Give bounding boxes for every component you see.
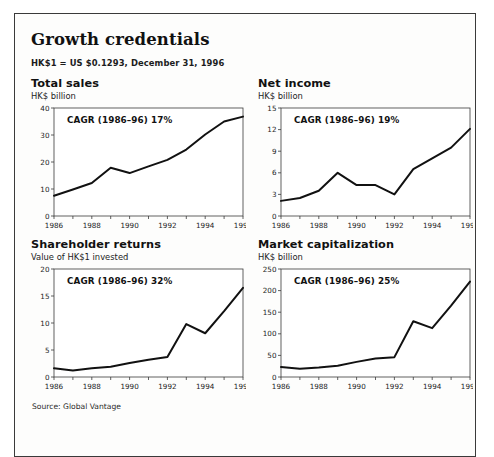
cagr-annotation: CAGR (1986–96) 25% — [294, 276, 399, 286]
svg-text:9: 9 — [272, 147, 277, 156]
svg-text:1996: 1996 — [461, 221, 473, 230]
svg-text:1988: 1988 — [310, 221, 329, 230]
source-note: Source: Global Vantage — [32, 402, 461, 411]
svg-text:1990: 1990 — [347, 221, 366, 230]
svg-text:1990: 1990 — [120, 221, 139, 230]
svg-text:100: 100 — [263, 329, 277, 338]
plot-area: 05101520198619881990199219941996 CAGR (1… — [31, 265, 246, 395]
chart-market-capitalization: Market capitalization HK$ billion 050100… — [258, 238, 473, 395]
svg-text:200: 200 — [263, 286, 277, 295]
svg-text:1992: 1992 — [158, 221, 176, 230]
plot-area: 010203040198619881990199219941996 CAGR (… — [31, 104, 246, 234]
chart-unit-label: HK$ billion — [31, 91, 258, 101]
chart-shareholder-returns: Shareholder returns Value of HK$1 invest… — [31, 238, 258, 395]
chart-grid: Total sales HK$ billion 0102030401986198… — [31, 77, 461, 395]
svg-text:1986: 1986 — [45, 382, 64, 391]
svg-text:250: 250 — [263, 265, 277, 274]
svg-text:40: 40 — [40, 104, 50, 113]
svg-text:1988: 1988 — [83, 382, 102, 391]
chart-net-income: Net income HK$ billion 03691215198619881… — [258, 77, 473, 234]
chart-unit-label: Value of HK$1 invested — [31, 252, 258, 262]
svg-text:12: 12 — [267, 125, 276, 134]
exhibit-panel: Growth credentials HK$1 = US $0.1293, De… — [14, 13, 476, 457]
plot-area: 050100150200250198619881990199219941996 … — [258, 265, 473, 395]
svg-text:15: 15 — [40, 292, 49, 301]
svg-text:1986: 1986 — [272, 382, 291, 391]
plot-area: 03691215198619881990199219941996 CAGR (1… — [258, 104, 473, 234]
chart-title: Net income — [258, 77, 473, 90]
svg-text:1992: 1992 — [158, 382, 176, 391]
svg-text:15: 15 — [267, 104, 276, 113]
chart-unit-label: HK$ billion — [258, 252, 473, 262]
chart-title: Total sales — [31, 77, 258, 90]
svg-text:1996: 1996 — [234, 221, 246, 230]
page-title: Growth credentials — [31, 30, 461, 49]
svg-text:1986: 1986 — [272, 221, 291, 230]
svg-text:6: 6 — [272, 168, 277, 177]
svg-text:0: 0 — [45, 212, 50, 221]
svg-text:1994: 1994 — [423, 382, 442, 391]
svg-text:1994: 1994 — [423, 221, 442, 230]
svg-text:1996: 1996 — [461, 382, 473, 391]
svg-text:10: 10 — [40, 319, 50, 328]
svg-text:0: 0 — [45, 373, 50, 382]
svg-text:1988: 1988 — [83, 221, 102, 230]
svg-text:20: 20 — [40, 265, 50, 274]
svg-text:1990: 1990 — [347, 382, 366, 391]
svg-text:0: 0 — [272, 373, 277, 382]
svg-text:5: 5 — [45, 346, 50, 355]
svg-text:1992: 1992 — [385, 221, 403, 230]
svg-text:30: 30 — [40, 131, 50, 140]
chart-total-sales: Total sales HK$ billion 0102030401986198… — [31, 77, 258, 234]
svg-text:0: 0 — [272, 212, 277, 221]
chart-title: Shareholder returns — [31, 238, 258, 251]
svg-text:10: 10 — [40, 185, 50, 194]
svg-text:1996: 1996 — [234, 382, 246, 391]
cagr-annotation: CAGR (1986–96) 17% — [67, 115, 172, 125]
svg-text:1990: 1990 — [120, 382, 139, 391]
svg-text:1994: 1994 — [196, 221, 215, 230]
cagr-annotation: CAGR (1986–96) 19% — [294, 115, 399, 125]
svg-text:150: 150 — [263, 308, 277, 317]
svg-text:50: 50 — [267, 351, 277, 360]
exchange-rate-note: HK$1 = US $0.1293, December 31, 1996 — [31, 58, 461, 68]
svg-text:1988: 1988 — [310, 382, 329, 391]
svg-text:20: 20 — [40, 158, 50, 167]
chart-title: Market capitalization — [258, 238, 473, 251]
svg-text:1994: 1994 — [196, 382, 215, 391]
cagr-annotation: CAGR (1986–96) 32% — [67, 276, 172, 286]
svg-text:1986: 1986 — [45, 221, 64, 230]
svg-text:1992: 1992 — [385, 382, 403, 391]
svg-text:3: 3 — [272, 190, 277, 199]
chart-unit-label: HK$ billion — [258, 91, 473, 101]
